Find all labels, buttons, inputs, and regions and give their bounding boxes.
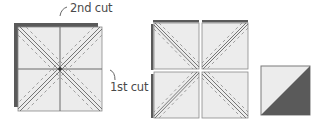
cut-diagram-svg [0,0,327,126]
unit-top-right [202,23,248,69]
unit-bottom-left [154,72,199,118]
second-cut-callout [60,7,67,16]
four-units-step [151,20,248,118]
first-cut-label: 1st cut [110,80,148,94]
half-square-triangle [261,66,310,115]
stacked-squares-step [14,7,115,115]
second-cut-label: 2nd cut [70,1,112,15]
unit-bottom-right [202,72,248,118]
first-cut-callout [110,70,115,80]
unit-top-left [154,23,199,69]
